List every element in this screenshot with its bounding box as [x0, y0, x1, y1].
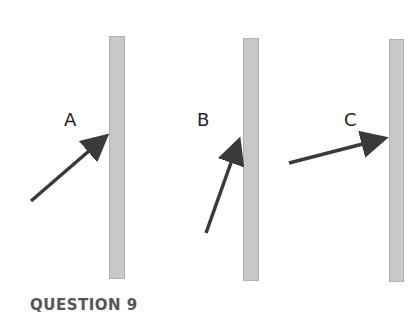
arrow-c-icon: [289, 139, 382, 163]
question-title: QUESTION 9: [30, 296, 138, 314]
arrow-b-icon: [206, 143, 238, 233]
arrow-a-icon: [31, 138, 104, 201]
arrows-diagram: [0, 0, 417, 323]
